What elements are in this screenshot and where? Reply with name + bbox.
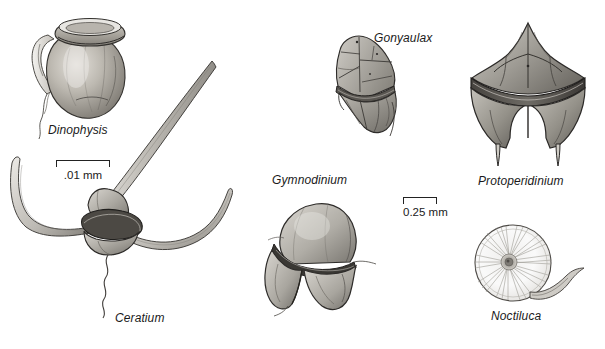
- caption-noctiluca: Noctiluca: [491, 309, 541, 323]
- gymnodinium-transverse-flagellum: [354, 261, 376, 264]
- gymnodinium-highlight: [294, 212, 330, 240]
- caption-gonyaulax: Gonyaulax: [374, 31, 432, 45]
- dinophysis-collar-inner: [66, 23, 114, 34]
- ceratium-apical-horn: [102, 61, 216, 211]
- figure-ceratium: [2, 55, 247, 320]
- protoperidinium-spine-left: [496, 144, 500, 166]
- gymnodinium-drawing: [258, 192, 376, 320]
- scale-bar-large: 0.25 mm: [403, 197, 437, 218]
- figure-protoperidinium: [466, 18, 590, 173]
- gonyaulax-pore-3: [369, 73, 371, 75]
- gonyaulax-pore-1: [356, 41, 358, 43]
- protoperidinium-spine-right: [556, 144, 560, 166]
- caption-protoperidinium: Protoperidinium: [478, 174, 564, 188]
- figure-gymnodinium: [258, 192, 376, 320]
- ceratium-flagellum: [102, 255, 108, 318]
- ceratium-left-horn: [11, 157, 90, 236]
- noctiluca-drawing: [468, 222, 588, 317]
- scale-bar-large-rule: [403, 197, 437, 204]
- scale-bar-large-label: 0.25 mm: [403, 206, 437, 218]
- illustration-plate: Dinophysis .01 mm: [0, 0, 605, 349]
- figure-gonyaulax: [326, 30, 418, 142]
- caption-gymnodinium: Gymnodinium: [272, 173, 347, 187]
- noctiluca-nucleolus: [507, 260, 510, 263]
- protoperidinium-pore: [527, 65, 530, 68]
- gonyaulax-drawing: [326, 30, 418, 142]
- caption-ceratium: Ceratium: [115, 311, 164, 325]
- ceratium-drawing: [2, 55, 247, 320]
- figure-noctiluca: [468, 222, 588, 317]
- protoperidinium-drawing: [466, 18, 590, 173]
- gonyaulax-pore-2: [376, 53, 378, 55]
